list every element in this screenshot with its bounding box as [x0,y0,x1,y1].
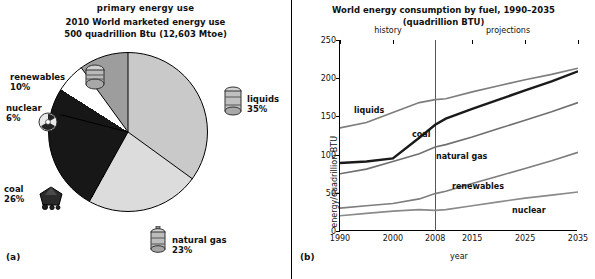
ytick-150: 150 [321,112,340,121]
series-label-renewables: renewables [452,182,504,191]
figure-root: primary energy use 2010 World marketed e… [0,0,595,279]
right-title-line1: World energy consumption by fuel, 1990–2… [292,5,595,15]
solar-panel-icon [83,64,107,90]
xtick-2008: 2008 [425,230,445,243]
panel-label-a: (a) [6,252,20,262]
xtick-1990: 1990 [330,230,350,243]
series-label-natural-gas: natural gas [436,152,487,161]
pie-label-liquids: liquids 35% [247,94,279,114]
pie-label-renewables-pct: 10% [10,82,65,92]
pie-label-coal-pct: 26% [4,194,24,204]
line-chart: 0 50 100 150 200 250 energy/quadrillion … [339,40,577,231]
pie-label-natural-gas-pct: 23% [172,245,227,255]
era-history-label: history [374,26,402,35]
pie-label-nuclear: nuclear 6% [6,103,42,123]
ytick-250: 250 [321,36,340,45]
left-header: primary energy use [0,3,291,13]
series-coal-line [340,71,578,163]
xtick-2035: 2035 [568,230,588,243]
oil-barrel-icon [222,86,244,116]
left-panel: primary energy use 2010 World marketed e… [0,0,291,279]
xtick-2000: 2000 [383,230,403,243]
series-lines [340,40,578,231]
y-axis-label: energy/quadrillion BTU [330,136,339,228]
pie-slice-borders [48,52,208,212]
pie-label-nuclear-pct: 6% [6,113,42,123]
x-axis-label: year [340,252,578,261]
pie-chart [48,52,208,212]
pie-label-coal-text: coal [4,184,24,194]
series-label-coal: coal [412,130,430,139]
radiation-drum-icon [38,112,58,132]
pie-label-natural-gas-text: natural gas [172,235,227,245]
series-liquids-line [340,68,578,128]
left-title-line1: 2010 World marketed energy use [0,17,291,27]
pie-label-liquids-pct: 35% [247,104,279,114]
ytick-200: 200 [321,74,340,83]
xtick-2025: 2025 [515,230,535,243]
right-panel: World energy consumption by fuel, 1990–2… [292,0,595,279]
era-projections-label: projections [486,26,530,35]
series-label-liquids: liquids [354,106,384,115]
pie-label-renewables-text: renewables [10,72,65,82]
pie-label-coal: coal 26% [4,184,24,204]
series-label-nuclear: nuclear [512,206,546,215]
pie-label-nuclear-text: nuclear [6,103,42,113]
gas-canister-icon [148,226,168,254]
xtick-2015: 2015 [462,230,482,243]
pie-label-natural-gas: natural gas 23% [172,235,227,255]
panel-label-b: (b) [300,252,315,262]
coal-lump-icon [38,186,64,210]
right-title-line2: (quadrillion BTU) [292,17,595,27]
left-title-line2: 500 quadrillion Btu (12,603 Mtoe) [0,29,291,39]
pie-label-liquids-text: liquids [247,94,279,104]
pie-label-renewables: renewables 10% [10,72,65,92]
